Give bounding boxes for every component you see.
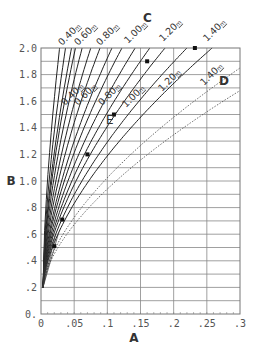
y-tick-label: .6 xyxy=(25,229,37,240)
curve-label: 1.00m xyxy=(122,18,149,45)
y-tick-label: .2 xyxy=(25,282,37,293)
x-tick-label: .3 xyxy=(234,318,246,329)
y-tick-label: .8 xyxy=(25,202,37,213)
data-point xyxy=(145,59,149,63)
family-label-d: D xyxy=(219,74,229,88)
x-tick-label: .25 xyxy=(198,318,216,329)
x-tick-label: .1 xyxy=(101,318,113,329)
data-point xyxy=(52,244,56,248)
y-tick-label: .4 xyxy=(25,255,37,266)
x-tick-label: .15 xyxy=(131,318,149,329)
x-tick-label: .05 xyxy=(65,318,83,329)
y-axis-title: B xyxy=(6,174,15,188)
y-tick-label: 2.0 xyxy=(19,43,37,54)
y-axis-ticks: 0..2.4.6.81.01.21.41.61.82.0 xyxy=(19,43,37,320)
y-tick-label: 1.2 xyxy=(19,149,37,160)
point-label-e: E xyxy=(106,113,114,127)
data-point xyxy=(60,218,64,222)
y-tick-label: 1.0 xyxy=(19,176,37,187)
lower-curve-labels: 0.40m0.60m0.80m1.00m1.20m1.40m xyxy=(59,60,225,109)
upper-curve-labels: 0.40m0.60m0.80m1.00m1.20m1.40m xyxy=(56,16,228,47)
curve-label: 1.20m xyxy=(156,66,183,93)
y-tick-label: 1.6 xyxy=(19,96,37,107)
chart: 0.05.1.15.2.25.3 0..2.4.6.81.01.21.41.61… xyxy=(0,0,257,357)
y-tick-label: 1.4 xyxy=(19,122,37,133)
curve-label: 0.80m xyxy=(94,20,121,47)
data-point xyxy=(193,46,197,50)
x-axis-title: A xyxy=(129,331,139,345)
x-tick-label: 0 xyxy=(38,318,44,329)
y-tick-label: 0. xyxy=(25,309,37,320)
data-point xyxy=(85,152,89,156)
x-tick-label: .2 xyxy=(168,318,180,329)
x-axis-ticks: 0.05.1.15.2.25.3 xyxy=(38,318,246,329)
curve-label: 1.40m xyxy=(201,16,228,43)
curve-label: 1.20m xyxy=(157,16,184,43)
y-tick-label: 1.8 xyxy=(19,69,37,80)
